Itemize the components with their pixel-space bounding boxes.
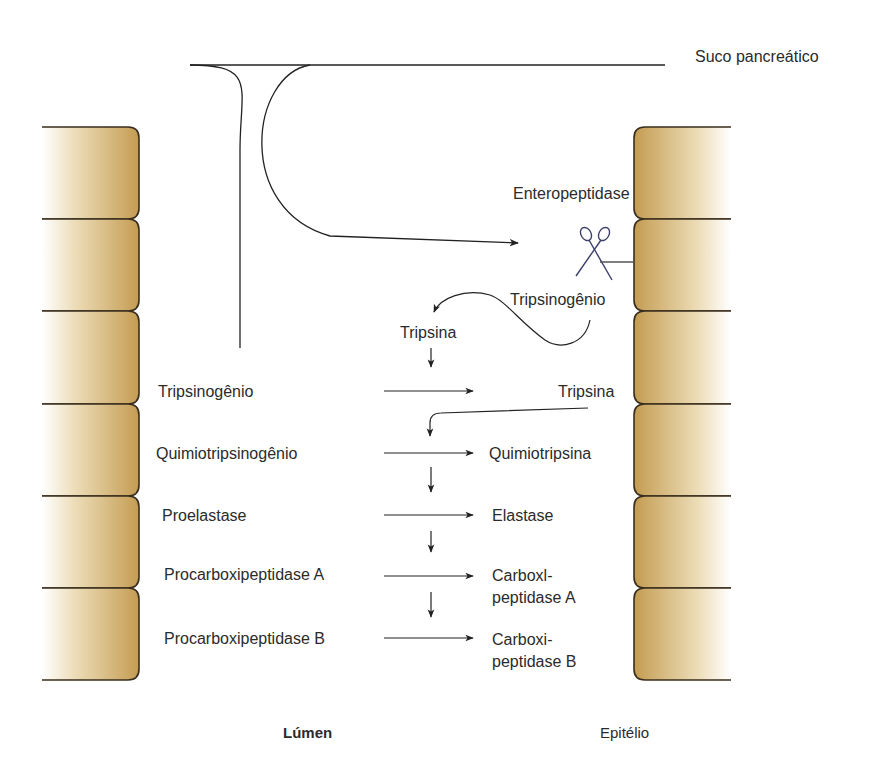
epithelium-cell-1 bbox=[634, 219, 731, 311]
product-label-4: Carboxi- peptidase B bbox=[492, 629, 577, 673]
epithelium-cell-2 bbox=[634, 311, 731, 404]
lumen-cell-1 bbox=[42, 219, 139, 311]
tripsina-feedback-arrow bbox=[430, 408, 588, 436]
epithelium-cell-3 bbox=[634, 404, 731, 496]
product-label-0: Tripsina bbox=[558, 382, 614, 402]
label-lumen: Lúmen bbox=[283, 723, 332, 743]
product-label-2: Elastase bbox=[492, 506, 553, 526]
precursor-label-2: Proelastase bbox=[162, 506, 247, 526]
label-suco-pancreatico: Suco pancreático bbox=[695, 47, 819, 67]
label-tripsinogenio-cleaved: Tripsinogênio bbox=[510, 290, 605, 310]
label-epitelio: Epitélio bbox=[600, 723, 649, 743]
precursor-label-3: Procarboxipeptidase A bbox=[164, 565, 324, 585]
product-label-3: Carboxl- peptidase A bbox=[492, 565, 576, 609]
precursor-label-0: Tripsinogênio bbox=[158, 382, 253, 402]
epithelium-cell-column bbox=[634, 127, 731, 680]
label-enteropeptidase: Enteropeptidase bbox=[513, 184, 630, 204]
pancreatic-juice-line bbox=[140, 65, 395, 120]
juice-to-enteropeptidase-arrow bbox=[262, 65, 518, 243]
lumen-cell-2 bbox=[42, 311, 139, 404]
precursor-label-1: Quimiotripsinogênio bbox=[156, 444, 297, 464]
scissors-icon bbox=[576, 225, 634, 280]
juice-to-lumen-arrow bbox=[190, 65, 242, 348]
lumen-cell-3 bbox=[42, 404, 139, 496]
epithelium-cell-4 bbox=[634, 496, 731, 588]
label-tripsina-autocatalysis: Tripsina bbox=[400, 323, 456, 343]
epithelium-cell-5 bbox=[634, 588, 731, 680]
precursor-label-4: Procarboxipeptidase B bbox=[164, 629, 325, 649]
lumen-cell-0 bbox=[42, 127, 139, 219]
lumen-cell-4 bbox=[42, 496, 139, 588]
epithelium-cell-0 bbox=[634, 127, 731, 219]
zymogen-activation-diagram: Suco pancreático Enteropeptidase Tripsin… bbox=[0, 0, 881, 765]
product-label-1: Quimiotripsina bbox=[489, 444, 591, 464]
lumen-side-epithelium bbox=[42, 127, 139, 680]
lumen-cell-5 bbox=[42, 588, 139, 680]
diagram-artwork bbox=[0, 0, 881, 765]
